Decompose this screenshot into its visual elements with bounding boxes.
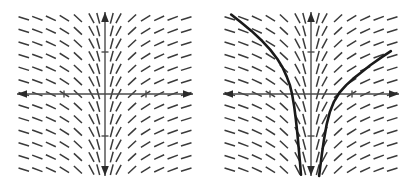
slope-segment bbox=[168, 105, 178, 109]
slope-segment bbox=[60, 116, 69, 122]
slope-segment bbox=[168, 16, 178, 20]
slope-segment bbox=[181, 80, 192, 83]
slope-segment bbox=[374, 79, 384, 83]
slope-segment bbox=[374, 42, 384, 46]
slope-segment bbox=[89, 77, 94, 87]
slope-segment bbox=[360, 104, 370, 109]
slope-segment bbox=[280, 153, 288, 161]
slope-segment bbox=[303, 114, 306, 125]
slope-segment bbox=[19, 29, 30, 32]
slope-segment bbox=[360, 16, 370, 21]
slope-segment bbox=[89, 140, 94, 150]
slope-segment bbox=[116, 77, 121, 87]
slope-segment bbox=[280, 103, 288, 110]
slope-segment bbox=[225, 143, 236, 146]
slope-segment bbox=[374, 155, 384, 159]
slope-segment bbox=[303, 101, 306, 112]
slope-segment bbox=[360, 54, 370, 59]
slope-segment bbox=[141, 142, 150, 148]
slope-segment bbox=[225, 42, 236, 45]
slope-segment bbox=[128, 52, 136, 60]
slope-segment bbox=[303, 139, 306, 150]
slope-segment bbox=[116, 64, 121, 74]
slope-segment bbox=[141, 53, 150, 59]
slope-segment bbox=[360, 29, 370, 34]
slope-segment bbox=[181, 130, 192, 133]
slope-segment bbox=[60, 66, 69, 72]
slope-segment bbox=[116, 127, 121, 137]
slope-segment bbox=[322, 64, 327, 74]
slope-segment bbox=[60, 78, 69, 84]
slope-segment bbox=[181, 42, 192, 45]
slope-segment bbox=[97, 101, 100, 112]
slope-segment bbox=[303, 164, 306, 175]
slope-segment bbox=[154, 66, 164, 71]
slope-segment bbox=[128, 166, 136, 174]
slope-segment bbox=[154, 142, 164, 147]
slope-segment bbox=[360, 79, 370, 84]
slope-segment bbox=[387, 105, 398, 108]
slope-segment bbox=[46, 167, 56, 172]
slope-segment bbox=[181, 155, 192, 158]
slope-segment bbox=[303, 51, 306, 62]
slope-segment bbox=[334, 128, 342, 136]
slope-segment bbox=[116, 140, 121, 150]
slope-segment bbox=[238, 42, 248, 46]
slope-segment bbox=[168, 29, 178, 33]
slope-segment bbox=[19, 80, 30, 83]
slope-segment bbox=[128, 40, 136, 48]
slope-segment bbox=[74, 115, 82, 123]
slope-segment bbox=[46, 79, 56, 84]
slope-segment bbox=[316, 139, 319, 150]
slope-segment bbox=[97, 127, 100, 138]
slope-segment bbox=[181, 118, 192, 121]
slope-segment bbox=[141, 154, 150, 160]
slope-segment bbox=[334, 78, 342, 85]
slope-segment bbox=[322, 102, 327, 112]
slope-segment bbox=[46, 29, 56, 34]
slope-segment bbox=[97, 164, 100, 175]
slope-segment bbox=[110, 76, 113, 87]
slope-segment bbox=[347, 66, 356, 72]
slope-segment bbox=[32, 29, 42, 33]
slope-segment bbox=[316, 114, 319, 125]
slope-segment bbox=[280, 27, 288, 34]
slope-segment bbox=[266, 129, 275, 135]
slope-segment bbox=[89, 64, 94, 74]
slope-segment bbox=[154, 130, 164, 135]
slope-segment bbox=[266, 116, 275, 122]
slope-segment bbox=[280, 166, 288, 174]
slope-segment bbox=[334, 153, 342, 161]
slope-segment bbox=[74, 40, 82, 48]
slope-segment bbox=[360, 117, 370, 122]
slope-segment bbox=[360, 167, 370, 172]
slope-segment bbox=[334, 103, 342, 110]
slope-segment bbox=[168, 143, 178, 147]
slope-segment bbox=[141, 28, 150, 34]
slope-segment bbox=[347, 53, 356, 59]
slope-segment bbox=[374, 130, 384, 134]
slope-segment bbox=[238, 105, 248, 109]
axes-right bbox=[223, 12, 399, 176]
slope-segment bbox=[266, 78, 275, 84]
slope-segment bbox=[334, 15, 342, 22]
slope-segment bbox=[141, 66, 150, 72]
slope-segment bbox=[238, 16, 248, 20]
slope-segment bbox=[387, 80, 398, 83]
slope-segment bbox=[89, 102, 94, 112]
slope-segment bbox=[89, 51, 94, 61]
slope-segment bbox=[141, 15, 150, 21]
x-axis-arrow-right bbox=[389, 90, 399, 98]
slope-segment bbox=[32, 143, 42, 147]
slope-segment bbox=[19, 55, 30, 58]
slope-segment bbox=[19, 143, 30, 146]
slope-segment bbox=[110, 164, 113, 175]
slope-segment bbox=[74, 103, 82, 110]
slope-segment bbox=[374, 16, 384, 20]
y-axis-arrow-down bbox=[307, 166, 315, 176]
slope-segment bbox=[387, 118, 398, 121]
figure-root bbox=[0, 0, 412, 188]
slope-segment bbox=[128, 15, 136, 22]
slope-segment bbox=[19, 155, 30, 158]
slope-segment bbox=[128, 103, 136, 110]
